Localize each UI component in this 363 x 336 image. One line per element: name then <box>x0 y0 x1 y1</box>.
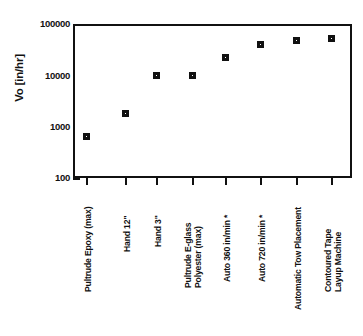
data-point-1 <box>122 110 129 117</box>
x-category-label-7: Contoured Tape Layup Machine <box>324 229 343 292</box>
data-point-2 <box>153 72 160 79</box>
x-category-line1: Pultrude E-glass <box>183 223 193 288</box>
x-category-line1: Auto 360 in/min * <box>222 215 232 282</box>
x-category-line1: Automatic Tow Placement <box>293 207 303 310</box>
x-tick-0 <box>86 178 88 185</box>
x-category-label-2: Hand 3" <box>154 215 164 247</box>
x-category-line1: Pultrude Epoxy (max) <box>83 207 93 292</box>
data-point-0 <box>83 133 90 140</box>
x-category-line2: Layup Machine <box>334 229 344 292</box>
x-category-label-1: Hand 12" <box>123 216 133 252</box>
x-category-line1: Contoured Tape <box>323 229 333 292</box>
y-major-tick-100 <box>73 178 80 180</box>
data-point-5 <box>257 41 264 48</box>
y-tick-label-100: 100 <box>55 172 70 183</box>
data-point-3 <box>189 72 196 79</box>
x-tick-7 <box>331 178 333 185</box>
x-category-label-6: Automatic Tow Placement <box>294 207 304 310</box>
x-tick-2 <box>156 178 158 185</box>
y-tick-label-1000: 1000 <box>50 121 70 132</box>
data-point-7 <box>328 35 335 42</box>
data-point-6 <box>293 37 300 44</box>
x-category-line1: Hand 3" <box>153 215 163 247</box>
plot-area <box>73 24 352 178</box>
x-category-line2: Polyester (max) <box>194 223 204 288</box>
data-point-4 <box>222 54 229 61</box>
x-category-line1: Hand 12" <box>122 216 132 252</box>
x-category-label-3: Pultrude E-glass Polyester (max) <box>184 223 203 288</box>
x-tick-5 <box>260 178 262 185</box>
y-tick-label-100000: 100000 <box>40 18 70 29</box>
y-tick-label-10000: 10000 <box>45 70 70 81</box>
y-axis-tick-labels: 100000 10000 1000 100 <box>0 0 70 336</box>
x-category-label-5: Auto 720 in/min * <box>258 215 268 282</box>
x-category-label-0: Pultrude Epoxy (max) <box>84 207 94 292</box>
x-tick-3 <box>192 178 194 185</box>
x-category-label-4: Auto 360 in/min * <box>223 215 233 282</box>
x-tick-6 <box>296 178 298 185</box>
chart-figure: Vo [in/hr] 100000 10000 1000 100 <box>0 0 363 336</box>
x-tick-1 <box>125 178 127 185</box>
x-tick-4 <box>225 178 227 185</box>
x-category-line1: Auto 720 in/min * <box>257 215 267 282</box>
